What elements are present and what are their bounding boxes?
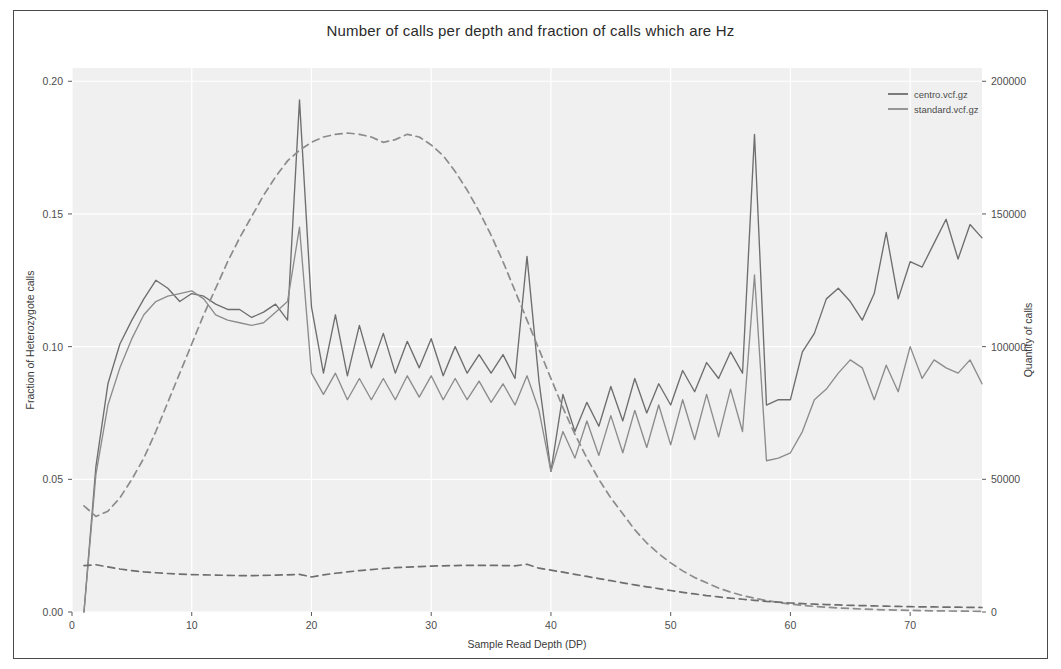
x-axis-title: Sample Read Depth (DP) <box>467 638 586 650</box>
x-tick-label: 10 <box>186 619 198 631</box>
x-tick-label: 40 <box>545 619 557 631</box>
x-tick-label: 30 <box>425 619 437 631</box>
x-tick-label: 60 <box>785 619 797 631</box>
legend-label-1: standard.vcf.gz <box>914 104 979 115</box>
chart-figure: Number of calls per depth and fraction o… <box>0 0 1061 669</box>
y-right-axis-title: Quantity of calls <box>1022 303 1034 378</box>
y-right-tick-label: 150000 <box>991 208 1026 220</box>
y-left-tick-label: 0.15 <box>43 208 64 220</box>
legend-label-0: centro.vcf.gz <box>914 89 968 100</box>
plot-panel <box>72 68 982 612</box>
y-right-tick-label: 100000 <box>991 341 1026 353</box>
y-left-tick-label: 0.10 <box>43 341 64 353</box>
y-left-axis-title: Fraction of Heterozygote calls <box>24 271 36 410</box>
x-tick-label: 70 <box>904 619 916 631</box>
y-right-tick-label: 50000 <box>991 473 1020 485</box>
y-right-tick-label: 200000 <box>991 75 1026 87</box>
y-right-tick-label: 0 <box>991 606 997 618</box>
x-tick-label: 20 <box>306 619 318 631</box>
x-tick-label: 0 <box>69 619 75 631</box>
y-left-tick-label: 0.00 <box>43 606 64 618</box>
y-left-tick-label: 0.20 <box>43 75 64 87</box>
x-tick-label: 50 <box>665 619 677 631</box>
chart-plot: 010203040506070Sample Read Depth (DP)0.0… <box>0 0 1061 669</box>
y-left-tick-label: 0.05 <box>43 473 64 485</box>
